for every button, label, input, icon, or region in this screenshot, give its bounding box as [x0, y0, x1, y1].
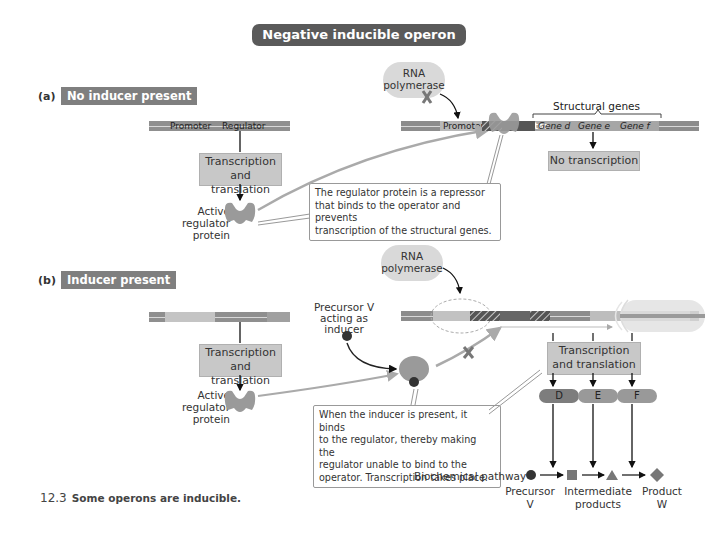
intermediate-triangle-icon — [606, 470, 618, 480]
repressor-protein-icon-a — [225, 203, 255, 224]
blocked-x-icon-a — [423, 91, 431, 103]
arrow-protein-to-complex — [258, 374, 397, 396]
precursor-circle-icon — [526, 470, 536, 480]
bound-inducer-icon — [409, 377, 419, 387]
inducer-dot-icon — [342, 331, 352, 341]
rna-pol-arrow-a — [440, 94, 458, 118]
arrow-repressor-to-operator — [258, 130, 488, 210]
product-diamond-icon — [650, 468, 664, 482]
structural-genes-brace — [533, 110, 661, 118]
arrow-inducer-to-regulator — [347, 343, 396, 369]
intermediate-square-icon — [567, 470, 577, 480]
operator-hatch-b-left — [470, 311, 500, 321]
operator-hatch-b-right — [530, 311, 550, 321]
diagram-graphics — [0, 0, 724, 539]
bound-repressor-icon-a — [489, 113, 519, 134]
repressor-protein-icon-b — [225, 391, 255, 412]
rna-pol-arrow-b — [443, 268, 460, 293]
blocked-arrow-to-operator — [436, 328, 500, 366]
